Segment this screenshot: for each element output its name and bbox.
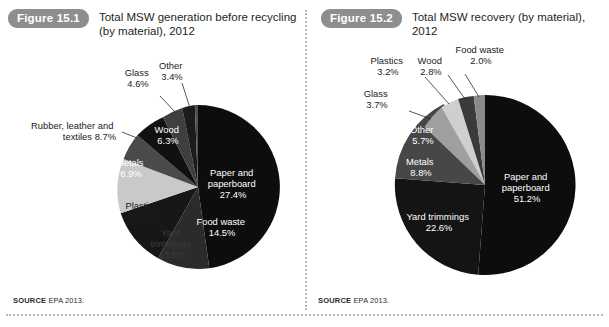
pie-label-rubber-leather-textiles: Rubber, leather and textiles 8.7% (31, 120, 116, 142)
pie-label-other: Other 5.7% (410, 124, 436, 146)
leader-line-other (182, 83, 190, 108)
figure-panel-15-2: Figure 15.2 Total MSW recovery (by mater… (305, 0, 609, 327)
figure-panel-15-1: Figure 15.1 Total MSW generation before … (0, 0, 305, 327)
leader-line-food-waste (465, 74, 479, 97)
source-note-15-2: SOURCE EPA 2013. (318, 296, 389, 305)
pie-label-plastics: Plastics 12.7% (126, 200, 161, 222)
leader-line-wood (448, 75, 465, 99)
figure-title: Total MSW recovery (by material), 2012 (412, 9, 606, 38)
figure-title: Total MSW generation before recycling (b… (99, 9, 298, 38)
pie-label-other: Other 3.4% (159, 60, 185, 82)
source-label: SOURCE (318, 296, 351, 305)
leader-line-plastics (425, 77, 449, 104)
leader-line-glass (160, 96, 176, 113)
pie-chart-msw-recovery: Food waste 2.0% Wood 2.8% Plastics 3.2% … (305, 40, 609, 305)
figure-pair-page: Figure 15.1 Total MSW generation before … (0, 0, 609, 327)
pie-label-food-waste: Food waste 2.0% (455, 44, 506, 66)
pie-label-metals: Metals 8.8% (406, 156, 436, 178)
source-label: SOURCE (13, 296, 46, 305)
figure-number-badge: Figure 15.1 (8, 9, 89, 28)
pie-label-wood: Wood 6.3% (155, 124, 182, 146)
pie-label-glass: Glass 4.6% (125, 67, 152, 89)
figure-number-badge: Figure 15.2 (321, 9, 402, 28)
pie-label-wood: Wood 2.8% (418, 55, 445, 77)
source-value: EPA 2013. (353, 296, 389, 305)
pie-label-metals: Metals 8.9% (116, 157, 146, 179)
source-note-15-1: SOURCE EPA 2013. (13, 296, 84, 305)
pie-chart-msw-generation: Other 3.4% Glass 4.6% Rubber, leather an… (0, 45, 305, 305)
figure-header-15-2: Figure 15.2 Total MSW recovery (by mater… (321, 9, 606, 38)
figure-header-15-1: Figure 15.1 Total MSW generation before … (8, 9, 298, 38)
pie-label-plastics: Plastics 3.2% (371, 55, 406, 77)
pie-label-glass: Glass 3.7% (364, 88, 391, 110)
source-value: EPA 2013. (48, 296, 84, 305)
leader-line-rubber (122, 132, 137, 138)
